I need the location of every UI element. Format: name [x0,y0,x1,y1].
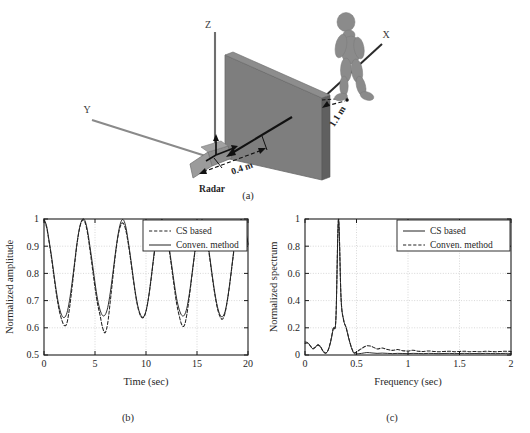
x-axis-label: Frequency (sec) [374,376,442,388]
legend: CS basedConven. method [397,220,510,251]
figure-container: Z X Y Radar 0.4 m 1.1 m (a) 051015200.50… [0,0,530,433]
axis-z-label: Z [205,19,211,30]
x-tick-label: 0 [303,358,308,369]
x-tick-label: 1 [406,358,411,369]
axis-y-label: Y [83,104,90,115]
x-axis-label: Time (sec) [124,376,169,388]
legend-label: CS based [176,226,212,236]
y-tick-label: 0.8 [288,241,301,252]
distance-human-label: 1.1 m [327,104,347,128]
y-tick-label: 0.6 [27,322,40,333]
x-tick-label: 10 [141,358,151,369]
x-tick-label: 2 [509,358,514,369]
y-axis-label: Normalized amplitude [4,240,15,335]
y-tick-label: 0 [295,349,300,360]
panel-c-spectrum-plot: 00.511.5200.20.40.60.81Frequency (sec)No… [265,205,530,433]
legend-label: CS based [430,226,466,236]
x-tick-label: 0.5 [350,358,363,369]
panel-c-caption: (c) [372,412,412,423]
y-tick-label: 0.8 [27,268,40,279]
x-tick-label: 20 [243,358,253,369]
distance-wall-label: 0.4 m [230,160,254,177]
y-tick-label: 1 [295,213,300,224]
panel-b-caption: (b) [108,412,148,423]
y-tick-label: 0.2 [288,322,301,333]
panel-b-time-plot: 051015200.50.60.70.80.91Time (sec)Normal… [0,205,265,433]
x-tick-label: 5 [93,358,98,369]
y-tick-label: 0.6 [288,268,301,279]
y-tick-label: 0.7 [27,295,40,306]
y-tick-label: 0.5 [27,349,40,360]
radar-label: Radar [199,184,226,194]
panel-a-caption: (a) [228,190,268,201]
y-tick-label: 1 [34,213,39,224]
legend-label: Conven. method [176,240,239,250]
x-tick-label: 0 [42,358,47,369]
y-tick-label: 0.4 [288,295,301,306]
legend-label: Conven. method [430,240,493,250]
axis-y-line [92,120,212,158]
radar-nose [190,152,212,178]
legend: CS basedConven. method [143,220,247,251]
axis-x-label: X [382,29,390,40]
panel-a-scenario-diagram: Z X Y Radar 0.4 m 1.1 m (a) [0,0,530,205]
y-tick-label: 0.9 [27,241,40,252]
x-tick-label: 15 [192,358,202,369]
y-axis-label: Normalized spectrum [268,242,279,333]
wall-side-edge [322,95,330,180]
x-tick-label: 1.5 [453,358,466,369]
